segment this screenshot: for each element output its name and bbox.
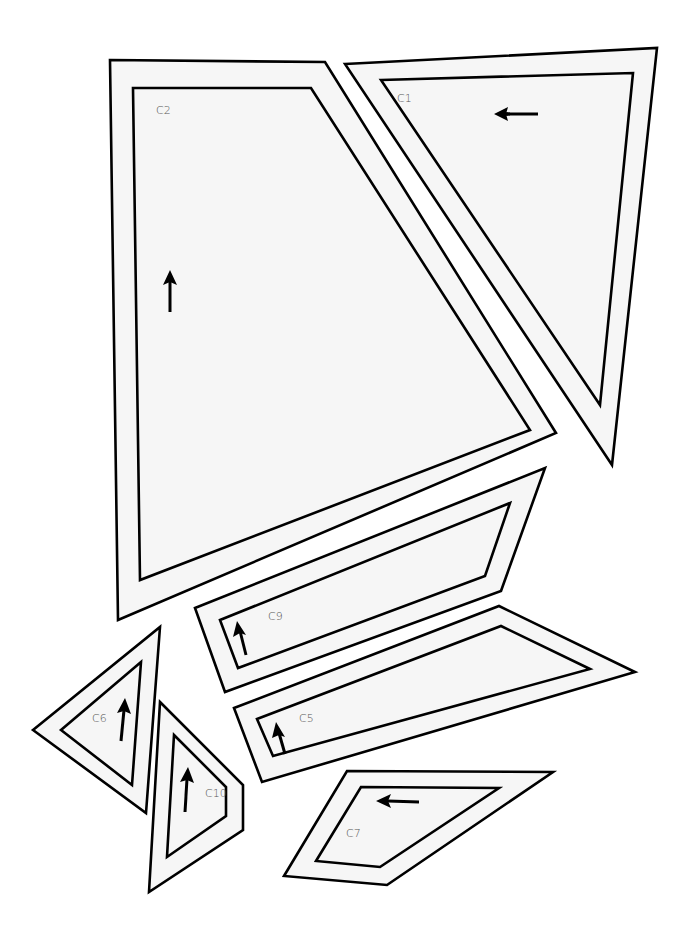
piece-c1-label: C1 — [397, 92, 412, 105]
piece-c7-label: C7 — [346, 827, 361, 840]
piece-c10-label: C10 — [205, 787, 227, 800]
piece-c7: C7 — [284, 771, 553, 885]
piece-c2-label: C2 — [156, 104, 171, 117]
piece-c5-label: C5 — [299, 712, 314, 725]
pattern-diagram: C1 C2 C9 C5 — [0, 0, 692, 950]
piece-c6-label: C6 — [92, 712, 107, 725]
piece-c6: C6 — [33, 627, 160, 813]
piece-c10: C10 — [149, 702, 243, 892]
piece-c9-label: C9 — [268, 610, 283, 623]
